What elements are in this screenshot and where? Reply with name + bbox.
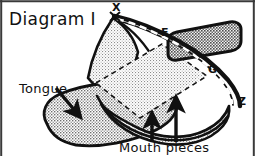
page-title: Diagram I <box>9 9 96 29</box>
point-label-z: Z <box>238 95 246 108</box>
tongue-label: Tongue <box>18 81 67 96</box>
mouth-pieces-label: Mouth pieces <box>119 140 209 155</box>
point-label-f: F <box>161 26 169 39</box>
point-label-x: X <box>112 1 121 14</box>
diagram-figure: Diagram I Tongue Mouth pieces X F G Z <box>0 0 255 156</box>
diagram-canvas: Diagram I Tongue Mouth pieces X F G Z <box>0 0 255 156</box>
point-label-g: G <box>208 63 217 76</box>
